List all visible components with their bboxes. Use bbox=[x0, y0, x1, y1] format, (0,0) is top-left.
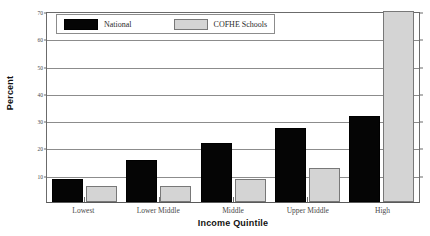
bar-group bbox=[270, 13, 344, 202]
legend-entry-cofhe: COFHE Schools bbox=[174, 19, 268, 30]
y-tick-mark-right bbox=[419, 149, 423, 150]
x-axis-tick-labels: LowestLower MiddleMiddleUpper MiddleHigh bbox=[46, 206, 420, 215]
plot-area: 10203040506070 bbox=[46, 12, 420, 203]
y-tick-label: 30 bbox=[38, 119, 44, 125]
y-tick-label: 50 bbox=[38, 65, 44, 71]
x-tick-label: High bbox=[345, 206, 420, 215]
bar-cofhe bbox=[309, 168, 340, 202]
legend-swatch-cofhe-icon bbox=[174, 19, 208, 30]
x-tick-mark bbox=[233, 197, 234, 202]
y-tick-mark-right bbox=[419, 122, 423, 123]
legend-label-national: National bbox=[104, 20, 132, 29]
bar-cofhe bbox=[160, 186, 191, 202]
y-tick-label: 60 bbox=[38, 37, 44, 43]
bar-group bbox=[345, 13, 419, 202]
y-tick-mark-right bbox=[419, 13, 423, 14]
chart-legend: National COFHE Schools bbox=[56, 14, 275, 34]
x-tick-mark bbox=[419, 197, 420, 202]
y-tick-label: 10 bbox=[38, 174, 44, 180]
x-axis-title: Income Quintile bbox=[46, 218, 420, 228]
x-tick-label: Lowest bbox=[46, 206, 121, 215]
bar-national bbox=[349, 116, 380, 202]
legend-entry-national: National bbox=[64, 19, 132, 30]
bar-national bbox=[201, 143, 232, 202]
legend-swatch-national-icon bbox=[64, 19, 98, 30]
y-tick-label: 40 bbox=[38, 92, 44, 98]
bar-group bbox=[121, 13, 195, 202]
legend-label-cofhe: COFHE Schools bbox=[214, 20, 268, 29]
bar-cofhe bbox=[383, 11, 414, 202]
bar-group bbox=[47, 13, 121, 202]
bar-chart: Percent 10203040506070 LowestLower Middl… bbox=[0, 0, 430, 236]
bar-group bbox=[196, 13, 270, 202]
y-tick-label: 20 bbox=[38, 146, 44, 152]
x-tick-label: Lower Middle bbox=[121, 206, 196, 215]
y-tick-mark-right bbox=[419, 176, 423, 177]
x-tick-mark bbox=[307, 197, 308, 202]
y-tick-mark-right bbox=[419, 94, 423, 95]
x-tick-mark bbox=[84, 197, 85, 202]
x-tick-mark bbox=[159, 197, 160, 202]
y-tick-mark-right bbox=[419, 67, 423, 68]
y-axis-title: Percent bbox=[5, 61, 15, 125]
bar-groups bbox=[47, 13, 419, 202]
y-tick-mark-right bbox=[419, 40, 423, 41]
bar-national bbox=[275, 128, 306, 202]
bar-cofhe bbox=[235, 179, 266, 202]
bar-national bbox=[126, 160, 157, 202]
x-tick-label: Upper Middle bbox=[270, 206, 345, 215]
bar-national bbox=[52, 179, 83, 202]
y-tick-label: 70 bbox=[38, 10, 44, 16]
bar-cofhe bbox=[86, 186, 117, 202]
x-tick-label: Middle bbox=[196, 206, 271, 215]
